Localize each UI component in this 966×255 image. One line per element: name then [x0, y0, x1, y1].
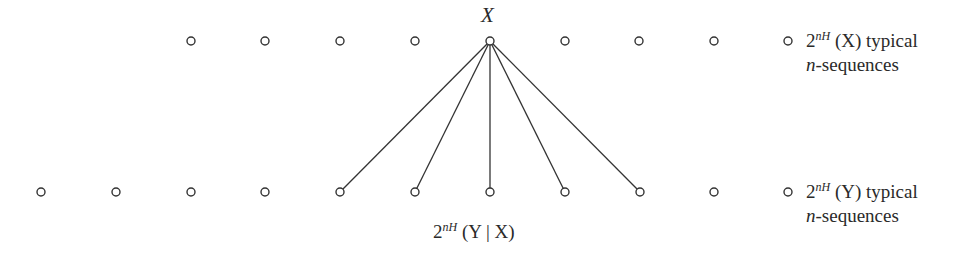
- y-sequence-circle-icon: [636, 188, 644, 196]
- x-sequence-circle-icon: [336, 37, 344, 45]
- y-sequence-circle-icon: [411, 188, 419, 196]
- legend-x-n: n: [806, 54, 816, 75]
- top-row-x-sequences: [187, 37, 792, 45]
- y-sequence-circle-icon: [710, 188, 718, 196]
- y-sequence-circle-icon: [187, 188, 195, 196]
- x-sequence-circle-icon: [411, 37, 419, 45]
- x-sequence-circle-icon: [187, 37, 195, 45]
- legend-y-exponent: nH: [816, 180, 831, 194]
- legend-y-typical-sequences: 2nH (Y) typical n-sequences: [806, 181, 918, 227]
- edge-line: [490, 41, 640, 192]
- conditional-count-label: 2nH (Y | X): [433, 221, 515, 245]
- legend-x-typical-sequences: 2nH (X) typical n-sequences: [806, 30, 918, 76]
- legend-y-sequences: -sequences: [816, 205, 899, 226]
- legend-x-line1: 2nH (X) typical: [806, 30, 918, 54]
- edge-line: [415, 41, 490, 192]
- bottom-row-y-sequences: [37, 188, 792, 196]
- cond-base: 2: [433, 221, 443, 242]
- edge-line: [490, 41, 565, 192]
- x-sequence-circle-icon: [261, 37, 269, 45]
- legend-y-base: 2: [806, 181, 816, 202]
- y-sequence-circle-icon: [37, 188, 45, 196]
- legend-y-n: n: [806, 205, 816, 226]
- x-node-label: X: [481, 4, 494, 26]
- source-node-circle-icon: [486, 37, 494, 45]
- legend-x-line2: n-sequences: [806, 54, 918, 76]
- y-sequence-circle-icon: [112, 188, 120, 196]
- legend-x-arg: (X): [835, 30, 861, 51]
- conditional-edges: [340, 41, 640, 192]
- legend-y-line2: n-sequences: [806, 205, 918, 227]
- legend-x-exponent: nH: [816, 29, 831, 43]
- x-sequence-circle-icon: [784, 37, 792, 45]
- legend-x-base: 2: [806, 30, 816, 51]
- y-sequence-circle-icon: [336, 188, 344, 196]
- y-sequence-circle-icon: [261, 188, 269, 196]
- cond-exponent: nH: [443, 220, 458, 234]
- y-sequence-circle-icon: [486, 188, 494, 196]
- x-sequence-circle-icon: [561, 37, 569, 45]
- y-sequence-circle-icon: [561, 188, 569, 196]
- x-sequence-circle-icon: [710, 37, 718, 45]
- x-sequence-circle-icon: [635, 37, 643, 45]
- legend-y-line1: 2nH (Y) typical: [806, 181, 918, 205]
- cond-arg: (Y | X): [462, 221, 515, 242]
- y-sequence-circle-icon: [784, 188, 792, 196]
- legend-y-arg: (Y): [835, 181, 861, 202]
- legend-y-suffix: typical: [866, 181, 918, 202]
- legend-x-suffix: typical: [866, 30, 918, 51]
- legend-x-sequences: -sequences: [816, 54, 899, 75]
- edge-line: [340, 41, 490, 192]
